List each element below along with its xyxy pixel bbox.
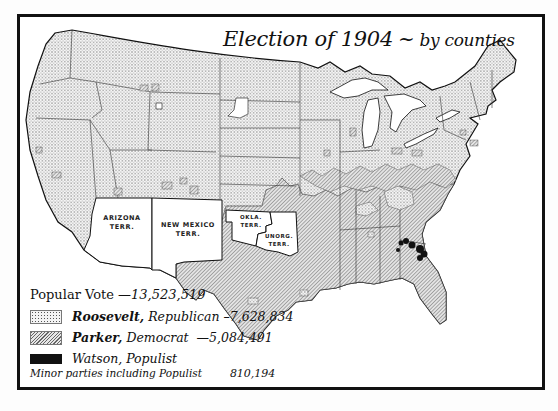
party-name: Populist (126, 351, 177, 366)
party-name: Republican (148, 309, 219, 324)
label-oklahoma-territory: OKLA. TERR. (236, 213, 266, 229)
territory-suffix: TERR. (156, 230, 220, 239)
label-arizona-territory: ARIZONA TERR. (97, 214, 147, 232)
map-title: Election of 1904~by counties (223, 27, 515, 51)
territory-name: ARIZONA (97, 214, 147, 223)
stipple-swatch-icon (30, 310, 62, 324)
label-unorganized-territory: UNORG. TERR. (260, 232, 298, 248)
legend-item-roosevelt: Roosevelt, Republican –7,628,834 (30, 306, 280, 327)
solid-swatch-icon (30, 354, 62, 364)
popular-vote-label: Popular Vote (30, 287, 114, 302)
party-name: Democrat (126, 330, 188, 345)
territory-suffix: TERR. (97, 223, 147, 232)
candidate-name: Watson, (72, 351, 122, 366)
legend-item-watson: Watson, Populist (30, 348, 280, 369)
arizona-territory (84, 198, 152, 270)
popular-vote-total: Popular Vote —13,523,519 (30, 287, 280, 302)
territory-suffix: TERR. (236, 221, 266, 229)
legend-item-parker: Parker, Democrat —5,084,491 (30, 327, 280, 348)
minor-parties-votes: 810,194 (230, 367, 276, 380)
candidate-name: Parker, (72, 330, 122, 345)
vote-count: –7,628,834 (224, 309, 294, 324)
title-subtitle: by counties (419, 30, 514, 50)
popular-vote-value: —13,523,519 (118, 287, 205, 302)
hatch-swatch-icon (30, 331, 62, 345)
label-new-mexico-territory: NEW MEXICO TERR. (156, 221, 220, 239)
territory-name: NEW MEXICO (156, 221, 220, 230)
title-separator: ~ (398, 27, 414, 51)
legend-minor-parties: Minor parties including Populist 810,194 (30, 367, 280, 380)
title-main: Election of 1904 (223, 27, 393, 51)
vote-count: —5,084,491 (197, 330, 273, 345)
territory-suffix: TERR. (260, 240, 298, 248)
map-legend: Popular Vote —13,523,519 Roosevelt, Repu… (30, 287, 280, 380)
territory-name: UNORG. (260, 232, 298, 240)
unshaded-county (156, 103, 162, 109)
territory-name: OKLA. (236, 213, 266, 221)
minor-parties-label: Minor parties including Populist (30, 367, 202, 380)
candidate-name: Roosevelt, (72, 309, 144, 324)
